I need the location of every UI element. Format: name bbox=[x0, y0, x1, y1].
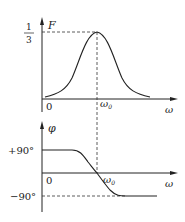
plus-90-label: +90° bbox=[8, 145, 34, 156]
phase-x-axis-label: ω bbox=[165, 178, 173, 189]
amplitude-center-frequency-label: ω0 bbox=[100, 98, 112, 110]
phase-center-frequency-label: ω0 bbox=[103, 174, 115, 186]
phase-plot: φ +90° 0 ω0 ω −90° bbox=[8, 121, 178, 212]
amplitude-curve bbox=[45, 32, 150, 97]
amplitude-x-axis-label: ω bbox=[165, 104, 173, 115]
amplitude-y-axis-label: F bbox=[47, 19, 56, 32]
amplitude-x-axis-arrow-icon bbox=[170, 97, 178, 101]
frequency-response-diagram: F 1 3 0 ω0 ω φ +90° 0 ω0 ω −90° bbox=[0, 0, 185, 222]
phase-origin-label: 0 bbox=[46, 175, 52, 186]
peak-value-denominator: 3 bbox=[26, 35, 32, 45]
minus-90-label: −90° bbox=[10, 191, 36, 202]
phase-x-axis-arrow-icon bbox=[170, 171, 178, 175]
peak-value-numerator: 1 bbox=[26, 22, 32, 32]
amplitude-y-axis-arrow-icon bbox=[40, 17, 44, 25]
amplitude-origin-label: 0 bbox=[46, 101, 52, 112]
phase-y-axis-arrow-icon bbox=[40, 121, 44, 129]
phase-y-axis-label: φ bbox=[48, 122, 56, 135]
